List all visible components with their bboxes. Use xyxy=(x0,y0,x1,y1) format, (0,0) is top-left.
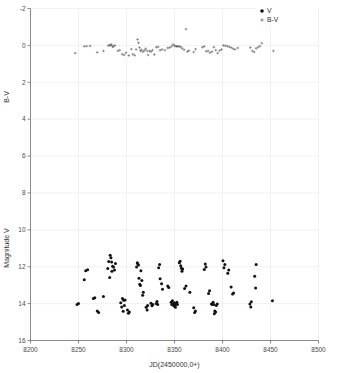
y-tick-labels: -20246810121416 xyxy=(18,5,26,344)
data-point-bv xyxy=(166,47,169,50)
data-point-bv xyxy=(173,44,176,47)
data-point-v xyxy=(185,285,188,288)
data-point-bv xyxy=(183,49,186,52)
data-point-bv xyxy=(207,50,210,53)
data-point-v xyxy=(192,306,195,309)
legend-entry-label: V xyxy=(267,7,272,14)
data-point-v xyxy=(167,286,170,289)
x-tick-label: 8200 xyxy=(23,346,38,353)
data-point-v xyxy=(208,289,211,292)
data-point-bv xyxy=(192,51,195,54)
data-point-v xyxy=(212,303,215,306)
data-point-bv xyxy=(237,47,240,50)
data-point-v xyxy=(141,294,144,297)
data-point-bv xyxy=(216,52,219,55)
data-point-v xyxy=(254,286,257,289)
light-curve-chart: 8200825083008350840084508500 -2024681012… xyxy=(0,0,337,373)
data-point-v xyxy=(176,303,179,306)
data-point-v xyxy=(159,277,162,280)
data-point-bv xyxy=(135,48,138,51)
data-point-v xyxy=(151,303,154,306)
data-point-bv xyxy=(272,50,275,53)
data-point-v xyxy=(203,268,206,271)
data-point-v xyxy=(160,282,163,285)
data-point-v xyxy=(204,262,207,265)
data-point-v xyxy=(120,305,123,308)
y-tick-label: 14 xyxy=(18,300,26,307)
data-point-v xyxy=(106,267,109,270)
data-point-bv xyxy=(144,47,147,50)
y-axis-title-bv: B-V xyxy=(3,91,10,103)
y-tick-label: 12 xyxy=(18,263,26,270)
data-point-bv xyxy=(128,54,131,57)
data-point-v xyxy=(174,306,177,309)
y-tick-label: 0 xyxy=(22,42,26,49)
data-point-bv xyxy=(185,28,188,31)
data-point-v xyxy=(137,277,140,280)
data-point-bv xyxy=(249,46,252,49)
data-point-bv xyxy=(155,46,158,49)
data-point-v xyxy=(216,302,219,305)
axis-ticks xyxy=(28,9,319,344)
x-tick-label: 8450 xyxy=(263,346,278,353)
data-point-v xyxy=(86,268,89,271)
data-point-bv xyxy=(194,48,197,51)
y-tick-label: 8 xyxy=(22,189,26,196)
data-point-v xyxy=(221,259,224,262)
legend-marker-circle-icon xyxy=(260,9,264,13)
data-point-bv xyxy=(138,46,141,49)
data-point-bv xyxy=(179,46,182,49)
y-axis-title-magnitude: Magnitude V xyxy=(3,228,11,268)
data-point-bv xyxy=(136,38,139,41)
data-point-bv xyxy=(89,45,92,48)
data-point-v xyxy=(249,305,252,308)
data-point-v xyxy=(122,310,125,313)
y-tick-label: 2 xyxy=(22,79,26,86)
x-tick-label: 8500 xyxy=(311,346,326,353)
data-point-v xyxy=(222,266,225,269)
data-point-v xyxy=(250,300,253,303)
data-point-v xyxy=(156,300,159,303)
data-point-v xyxy=(204,266,207,269)
data-point-v xyxy=(123,304,126,307)
data-point-v xyxy=(179,260,182,263)
data-point-v xyxy=(157,266,160,269)
data-point-bv xyxy=(125,51,128,54)
data-point-bv xyxy=(224,44,227,47)
data-point-v xyxy=(83,278,86,281)
data-point-v xyxy=(102,295,105,298)
data-point-bv xyxy=(164,49,167,52)
data-point-bv xyxy=(137,42,140,45)
data-point-v xyxy=(110,270,113,273)
data-point-v xyxy=(156,303,159,306)
data-point-v xyxy=(146,309,149,312)
data-point-v xyxy=(124,298,127,301)
data-point-bv xyxy=(181,47,184,50)
data-point-v xyxy=(188,291,191,294)
data-point-bv xyxy=(157,46,160,49)
y-tick-label: 16 xyxy=(18,337,26,344)
x-tick-label: 8300 xyxy=(119,346,134,353)
data-point-bv xyxy=(146,50,149,53)
data-point-bv xyxy=(214,49,217,52)
data-point-v xyxy=(77,302,80,305)
legend-entry-label: B-V xyxy=(267,16,279,23)
data-point-v xyxy=(146,304,149,307)
data-point-v xyxy=(137,263,140,266)
x-axis-title: JD(2450000,0+) xyxy=(149,361,199,369)
data-point-v xyxy=(139,284,142,287)
chart-legend: VB-V xyxy=(256,4,318,26)
data-point-v xyxy=(108,276,111,279)
data-point-v xyxy=(110,261,113,264)
data-point-bv xyxy=(74,52,77,55)
data-point-v xyxy=(112,266,115,269)
data-point-bv xyxy=(96,51,99,54)
data-point-v xyxy=(158,263,161,266)
data-point-v xyxy=(214,310,217,313)
data-point-bv xyxy=(213,46,216,49)
data-point-v xyxy=(109,256,112,259)
x-tick-label: 8350 xyxy=(167,346,182,353)
data-point-v xyxy=(93,296,96,299)
data-point-bv xyxy=(147,54,150,57)
data-point-v xyxy=(119,301,122,304)
